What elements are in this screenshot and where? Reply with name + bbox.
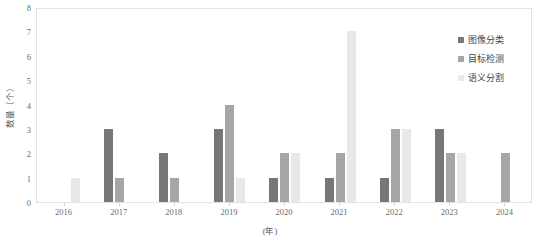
bar-group [92,9,147,202]
bar-group [313,9,368,202]
y-axis-tick-label: 4 [27,101,31,111]
x-axis-tick-labels: 201620172018201920202021202220232024 [36,207,532,223]
x-axis-tick-label: 2019 [220,207,237,217]
bar [269,178,278,202]
y-axis-tick-label: 5 [27,76,31,86]
y-axis-tick-label: 2 [27,149,31,159]
bar [446,153,455,202]
y-axis-tick-label: 1 [27,174,31,184]
legend-item-label: 语义分割 [468,71,504,84]
legend-item-label: 图像分类 [468,33,504,46]
x-axis-tick-label: 2023 [441,207,458,217]
legend-item[interactable]: 语义分割 [458,68,534,87]
x-axis-tick-mark [229,203,230,206]
x-axis-tick-mark [284,203,285,206]
x-axis-tick-label: 2024 [496,207,513,217]
bar [435,129,444,202]
bar [380,178,389,202]
bar-group [147,9,202,202]
y-axis-title-text: 数量（个） [2,83,14,128]
bar [501,153,510,202]
y-axis-tick-label: 8 [27,3,31,13]
legend-swatch-icon [458,75,464,81]
bar [336,153,345,202]
legend-swatch-icon [458,56,464,62]
x-axis-tick-mark [339,203,340,206]
legend-item[interactable]: 图像分类 [458,30,534,49]
legend-swatch-icon [458,37,464,43]
x-axis-tick-mark [504,203,505,206]
bar [280,153,289,202]
y-axis-tick-label: 6 [27,52,31,62]
bars-layer [37,9,531,202]
bar [159,153,168,202]
y-axis-tick-label: 7 [27,27,31,37]
legend-item-label: 目标检测 [468,52,504,65]
bar [325,178,334,202]
bar [225,105,234,203]
bar [115,178,124,202]
bar [402,129,411,202]
x-axis-tick-label: 2022 [386,207,403,217]
bar [457,153,466,202]
bar [71,178,80,202]
y-axis-title: 数量（个） [0,0,16,210]
x-axis-tick-label: 2017 [110,207,127,217]
x-axis-tick-mark [394,203,395,206]
x-axis-tick-mark [449,203,450,206]
legend-item[interactable]: 目标检测 [458,49,534,68]
bar [170,178,179,202]
x-axis-tick-label: 2021 [331,207,348,217]
bar-group [257,9,312,202]
bar [104,129,113,202]
x-axis-tick-mark [174,203,175,206]
bar-group [368,9,423,202]
bar-chart: 数量（个） 012345678 201620172018201920202021… [0,0,540,250]
bar-group [202,9,257,202]
bar [214,129,223,202]
bar [236,178,245,202]
x-axis-tick-label: 2016 [55,207,72,217]
x-axis-tick-label: 2018 [165,207,182,217]
legend: 图像分类目标检测语义分割 [458,30,534,87]
x-axis-title: (年) [0,224,540,236]
y-axis-tick-label: 3 [27,125,31,135]
bar [391,129,400,202]
x-axis-tick-mark [64,203,65,206]
y-axis-tick-label: 0 [27,198,31,208]
bar-group [37,9,92,202]
x-axis-tick-label: 2020 [276,207,293,217]
bar [291,153,300,202]
x-axis-tick-mark [119,203,120,206]
bar [347,31,356,202]
y-axis-tick-labels: 012345678 [16,8,34,203]
